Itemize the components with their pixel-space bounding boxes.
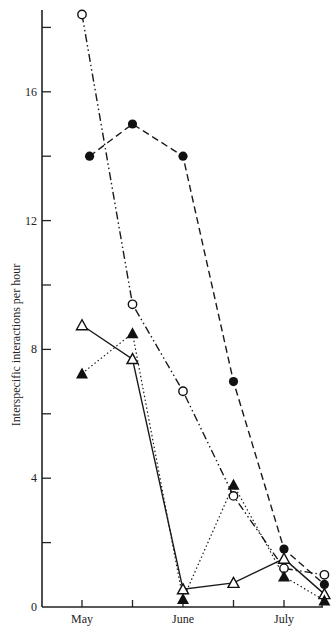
series-markers	[76, 10, 330, 605]
y-tick-label: 4	[31, 471, 37, 485]
filled-triangle-marker	[127, 327, 139, 338]
filled-triangle-marker	[76, 368, 88, 379]
x-tick-label: June	[172, 612, 194, 626]
y-axis-title: Interspecific interactions per hour	[9, 264, 23, 426]
open-triangle-marker	[77, 320, 88, 330]
open-circle-marker	[320, 571, 328, 579]
y-tick-label: 0	[31, 600, 37, 614]
axes: 0481216MayJuneJuly	[25, 10, 323, 626]
filled-circle-marker	[128, 119, 137, 128]
open-circle-marker	[128, 300, 136, 308]
open-circle-marker	[179, 387, 187, 395]
open-triangle-marker	[228, 577, 239, 587]
filled-circle-marker	[178, 152, 187, 161]
series-lines	[82, 15, 324, 601]
filled-circle-marker	[85, 152, 94, 161]
open-triangle-marker	[127, 354, 138, 364]
x-tick-label: July	[274, 612, 294, 626]
open-triangle-marker	[279, 553, 290, 563]
x-tick-label: May	[71, 612, 93, 626]
filled-triangle-marker	[228, 479, 240, 490]
filled-circle-marker	[229, 377, 238, 386]
open-circle-marker	[78, 10, 86, 18]
y-tick-label: 8	[31, 342, 37, 356]
filled-triangle-marker	[177, 593, 189, 604]
filled-triangle-marker	[278, 570, 290, 581]
line-chart: 0481216MayJuneJuly Interspecific interac…	[0, 0, 335, 630]
series-line-open-circle	[82, 15, 324, 575]
y-tick-label: 16	[25, 85, 37, 99]
y-tick-label: 12	[25, 214, 37, 228]
open-circle-marker	[229, 492, 237, 500]
